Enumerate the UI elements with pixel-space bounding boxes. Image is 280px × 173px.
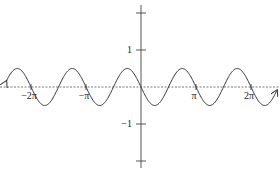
x-tick-label: 2π — [244, 90, 254, 101]
x-tick-label: π — [191, 90, 196, 101]
y-tick-label: −1 — [121, 118, 132, 129]
y-tick-label: 1 — [127, 44, 132, 55]
x-tick-label: −2π — [21, 90, 37, 101]
sine-graph: −2π−ππ2π1−1 — [0, 0, 280, 173]
